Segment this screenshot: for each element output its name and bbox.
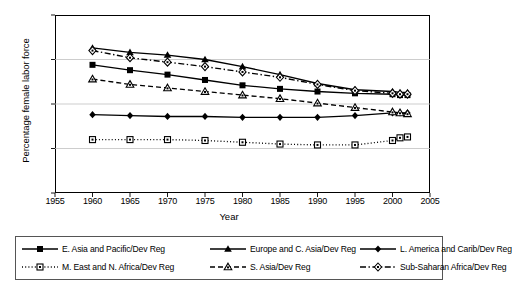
legend-item-m-east-and-n-africa: M. East and N. Africa/Dev Reg: [20, 260, 208, 274]
legend-label: Europe and C. Asia/Dev Reg: [250, 244, 356, 254]
legend-label: L. America and Carib/Dev Reg: [400, 244, 512, 254]
x-tick-label: 2005: [410, 196, 450, 206]
x-tick-label: 1970: [148, 196, 188, 206]
legend-key-filled-square-icon: [20, 242, 60, 256]
legend-key-open-triangle-icon: [208, 260, 248, 274]
x-tick-label: 1975: [185, 196, 225, 206]
legend-key-open-square-icon: [20, 260, 60, 274]
legend-item-e-asia-and-pacific: E. Asia and Pacific/Dev Reg: [20, 242, 208, 256]
legend-item-l-america-and-carib: L. America and Carib/Dev Reg: [358, 242, 512, 256]
y-tick-marks: [51, 15, 55, 193]
legend-label: E. Asia and Pacific/Dev Reg: [62, 244, 165, 254]
x-tick-label: 1985: [260, 196, 300, 206]
legend-item-sub-saharan-africa: Sub-Saharan Africa/Dev Reg: [358, 260, 506, 274]
x-tick-label: 1960: [73, 196, 113, 206]
legend-row: M. East and N. Africa/Dev Reg S. Asia/De…: [20, 258, 438, 276]
legend-key-open-diamond-icon: [358, 260, 398, 274]
legend-key-filled-triangle-icon: [208, 242, 248, 256]
legend-label: M. East and N. Africa/Dev Reg: [62, 262, 174, 272]
chart-legend: E. Asia and Pacific/Dev Reg Europe and C…: [15, 236, 443, 280]
x-tick-label: 2000: [373, 196, 413, 206]
legend-item-europe-and-c-asia: Europe and C. Asia/Dev Reg: [208, 242, 358, 256]
x-tick-label: 1955: [35, 196, 75, 206]
x-tick-label: 1995: [335, 196, 375, 206]
series-lines: [93, 48, 408, 145]
x-tick-label: 1990: [298, 196, 338, 206]
legend-item-s-asia: S. Asia/Dev Reg: [208, 260, 358, 274]
x-tick-label: 1965: [110, 196, 150, 206]
x-tick-label: 1980: [223, 196, 263, 206]
legend-label: Sub-Saharan Africa/Dev Reg: [400, 262, 506, 272]
legend-row: E. Asia and Pacific/Dev Reg Europe and C…: [20, 240, 438, 258]
legend-label: S. Asia/Dev Reg: [250, 262, 310, 272]
legend-key-filled-diamond-icon: [358, 242, 398, 256]
